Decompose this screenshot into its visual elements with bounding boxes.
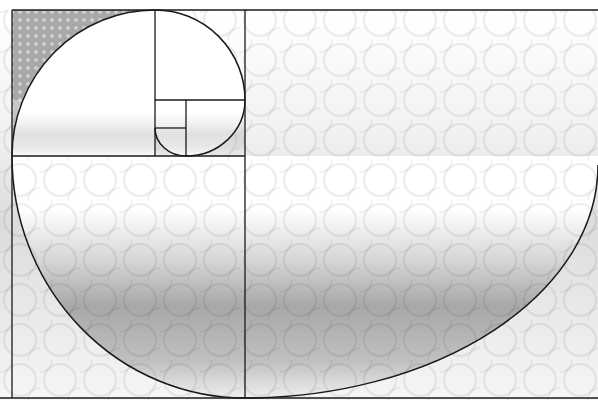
- spiral-canvas: [0, 0, 598, 410]
- golden-spiral-diagram: — — — — — —: [0, 0, 598, 410]
